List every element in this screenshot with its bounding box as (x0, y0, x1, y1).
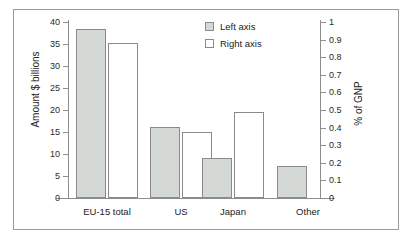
left-axis-tick-label: 15 (50, 128, 60, 137)
left-axis-tick (63, 198, 68, 199)
legend-label-right-axis: Right axis (220, 38, 262, 49)
left-axis-tick (63, 154, 68, 155)
left-axis-tick (63, 110, 68, 111)
left-axis-title: Amount $ billions (30, 35, 41, 145)
left-axis-tick (63, 66, 68, 67)
left-axis-line (68, 20, 69, 199)
bar-group (76, 22, 138, 198)
legend-item-right-axis: Right axis (205, 36, 262, 50)
bar-group (277, 22, 339, 198)
left-axis-tick-label: 20 (50, 106, 60, 115)
bar (202, 158, 232, 198)
bar (150, 127, 180, 198)
right-axis-tick (321, 198, 326, 199)
left-axis-tick-label: 25 (50, 84, 60, 93)
left-axis-tick-label: 0 (55, 194, 60, 203)
left-axis-tick-label: 5 (55, 172, 60, 181)
chart-legend: Left axis Right axis (205, 19, 262, 53)
bar (108, 43, 138, 198)
legend-swatch-white (205, 39, 214, 48)
left-axis-tick-label: 10 (50, 150, 60, 159)
legend-item-left-axis: Left axis (205, 19, 262, 33)
legend-label-left-axis: Left axis (220, 21, 255, 32)
left-axis-tick (63, 176, 68, 177)
bar (234, 112, 264, 198)
left-axis-tick (63, 22, 68, 23)
left-axis-tick (63, 44, 68, 45)
chart-figure: Amount $ billions % of GNP 0510152025303… (0, 0, 417, 241)
bar (277, 166, 307, 198)
x-axis-category-label: Other (263, 206, 353, 217)
left-axis-tick-label: 40 (50, 18, 60, 27)
left-axis-tick (63, 132, 68, 133)
right-axis-title: % of GNP (353, 64, 364, 144)
left-axis-tick-label: 35 (50, 40, 60, 49)
legend-swatch-gray (205, 22, 214, 31)
bar (76, 29, 106, 198)
x-axis-line (56, 198, 335, 199)
left-axis-tick (63, 88, 68, 89)
left-axis-tick-label: 30 (50, 62, 60, 71)
